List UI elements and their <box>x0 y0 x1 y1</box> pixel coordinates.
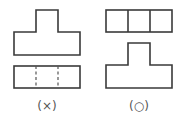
left-panel-label: (×) <box>27 99 67 113</box>
left-rectangle <box>14 66 80 88</box>
right-three-square-rectangle <box>106 10 172 32</box>
right-panel-label: (○) <box>119 99 159 113</box>
right-panel <box>106 10 172 88</box>
left-t-shape <box>14 10 80 55</box>
right-t-shape <box>106 43 172 88</box>
left-panel <box>14 10 80 88</box>
